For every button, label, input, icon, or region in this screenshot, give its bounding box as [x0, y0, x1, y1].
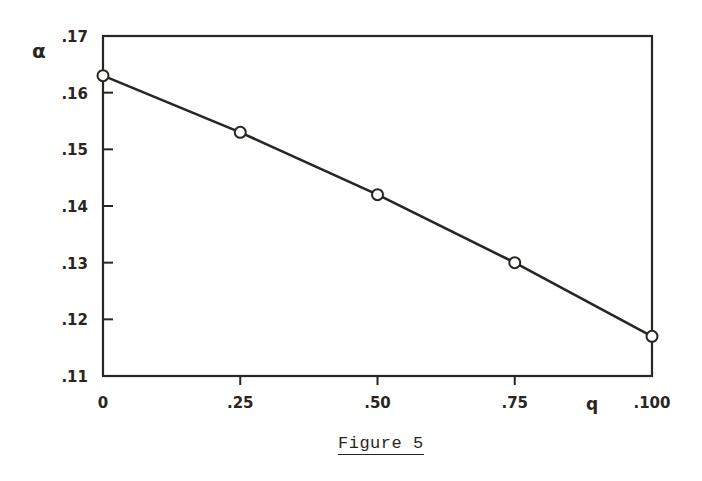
x-axis-label: q: [586, 394, 598, 414]
data-point-marker: [372, 189, 383, 200]
data-point-marker: [98, 70, 109, 81]
y-tick-label: .12: [61, 311, 88, 329]
y-tick-label: .16: [61, 85, 88, 103]
y-tick-label: .15: [61, 141, 88, 159]
x-axis-ticks: 0.25.50.75.100: [98, 376, 671, 412]
data-point-marker: [509, 257, 520, 268]
y-tick-label: .14: [61, 198, 88, 216]
line-chart: .11.12.13.14.15.16.17 0.25.50.75.100 α q: [0, 0, 702, 481]
data-line: [103, 76, 652, 337]
data-markers: [98, 70, 658, 342]
figure-caption: Figure 5: [338, 434, 424, 455]
x-tick-label: .100: [633, 394, 670, 412]
y-tick-label: .17: [61, 28, 88, 46]
data-point-marker: [647, 331, 658, 342]
data-point-marker: [235, 127, 246, 138]
x-tick-label: .25: [227, 394, 254, 412]
y-tick-label: .11: [61, 368, 88, 386]
y-axis-label: α: [32, 39, 46, 63]
x-tick-label: 0: [98, 394, 108, 412]
x-tick-label: .50: [364, 394, 391, 412]
x-tick-label: .75: [501, 394, 528, 412]
plot-frame: [103, 36, 652, 376]
y-tick-label: .13: [61, 255, 88, 273]
